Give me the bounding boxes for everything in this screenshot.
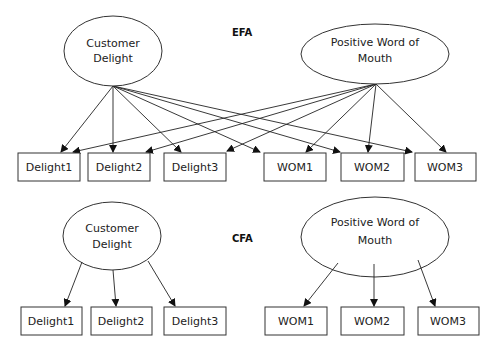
efa-indicator-delight3: Delight3 <box>164 153 226 181</box>
cfa-indicator-wom3: WOM3 <box>418 307 479 335</box>
cfa-indicator-delight3: Delight3 <box>164 307 226 335</box>
efa-indicator-wom3: WOM3 <box>415 153 476 181</box>
svg-text:WOM3: WOM3 <box>430 315 466 328</box>
efa-title: EFA <box>232 27 253 38</box>
efa-edges-customer-delight <box>61 86 412 152</box>
efa-factor-customer-delight: Customer Delight <box>64 16 162 86</box>
cfa-factor-positive-word-of-mouth: Positive Word of Mouth <box>301 197 449 277</box>
svg-text:WOM1: WOM1 <box>277 161 313 174</box>
efa-factor-positive-word-of-mouth: Positive Word of Mouth <box>301 24 449 84</box>
svg-text:Delight2: Delight2 <box>98 315 145 328</box>
efa-indicator-delight2: Delight2 <box>88 153 150 181</box>
svg-text:Delight2: Delight2 <box>96 161 143 174</box>
efa-indicator-wom2: WOM2 <box>341 153 404 181</box>
svg-text:WOM2: WOM2 <box>354 161 390 174</box>
efa-cfa-diagram: EFA Customer Delight Positive Word of Mo… <box>0 0 494 353</box>
cfa-indicator-delight1: Delight1 <box>21 307 82 335</box>
svg-text:Delight: Delight <box>93 52 133 65</box>
cfa-title: CFA <box>232 233 253 244</box>
cfa-indicator-delight2: Delight2 <box>91 307 152 335</box>
svg-text:Positive Word of: Positive Word of <box>331 36 420 49</box>
svg-text:Delight3: Delight3 <box>172 315 219 328</box>
svg-text:Customer: Customer <box>86 37 140 50</box>
svg-text:Positive Word of: Positive Word of <box>331 216 420 229</box>
svg-text:Delight1: Delight1 <box>26 161 73 174</box>
svg-text:Delight: Delight <box>92 238 132 251</box>
cfa-factor-customer-delight: Customer Delight <box>63 202 161 270</box>
svg-text:Mouth: Mouth <box>358 52 393 65</box>
svg-text:WOM1: WOM1 <box>278 315 314 328</box>
cfa-indicator-wom1: WOM1 <box>265 307 327 335</box>
svg-text:Delight3: Delight3 <box>172 161 219 174</box>
efa-indicator-delight1: Delight1 <box>18 153 80 181</box>
svg-text:Delight1: Delight1 <box>28 315 75 328</box>
svg-text:Mouth: Mouth <box>358 234 393 247</box>
svg-text:Customer: Customer <box>85 222 139 235</box>
svg-text:WOM3: WOM3 <box>427 161 463 174</box>
cfa-indicator-wom2: WOM2 <box>341 307 404 335</box>
svg-text:WOM2: WOM2 <box>354 315 390 328</box>
efa-indicator-wom1: WOM1 <box>264 153 326 181</box>
efa-edges-positive-wom <box>73 84 446 152</box>
